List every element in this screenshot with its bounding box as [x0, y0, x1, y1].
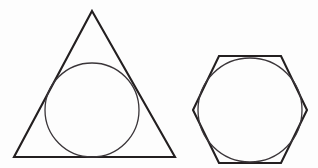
regular-hexagon-outline	[193, 56, 307, 163]
triangle-incircle	[45, 63, 139, 157]
figure-canvas	[0, 0, 318, 168]
hexagon-group	[193, 56, 307, 163]
hexagon-incircle	[198, 58, 302, 162]
triangle-group	[14, 11, 175, 157]
geometry-figure-svg	[0, 0, 318, 168]
equilateral-triangle-outline	[14, 11, 175, 157]
